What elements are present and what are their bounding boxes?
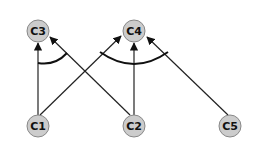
node-label: C2 xyxy=(126,120,142,133)
node-label: C4 xyxy=(126,25,142,38)
node-c1: C1 xyxy=(27,115,49,137)
node-c5: C5 xyxy=(219,115,241,137)
and-arc-c3 xyxy=(38,53,67,64)
and-arcs xyxy=(38,52,168,64)
node-label: C1 xyxy=(30,120,46,133)
edge-c5-c4 xyxy=(147,37,228,115)
node-label: C3 xyxy=(30,25,46,38)
node-label: C5 xyxy=(222,120,238,133)
hypergraph-diagram: C3 C4 C1 C2 C5 xyxy=(0,0,263,156)
node-c2: C2 xyxy=(123,115,145,137)
edge-c2-c3 xyxy=(50,37,130,115)
node-c4: C4 xyxy=(123,20,145,42)
node-c3: C3 xyxy=(27,20,49,42)
edge-c1-c4 xyxy=(40,36,121,115)
edges xyxy=(38,36,228,115)
